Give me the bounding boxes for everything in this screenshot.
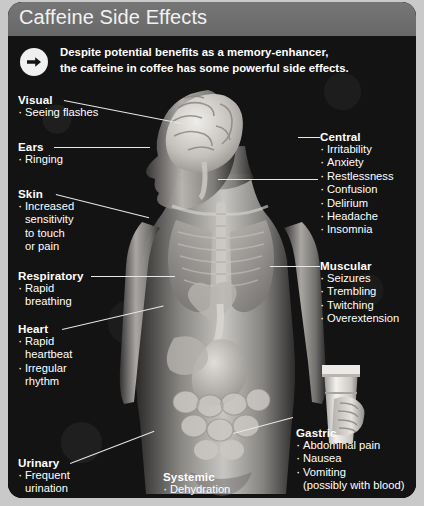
label-group-skin: Skin Increased sensitivity to touch or p… (18, 187, 74, 254)
list-item: Abdominal pain (296, 439, 404, 452)
list-item: Seeing flashes (18, 106, 98, 119)
page-title: Caffeine Side Effects (19, 6, 207, 29)
label-items: Frequent urination (18, 469, 70, 496)
label-heading: Systemic (163, 470, 230, 483)
leader-line-central (298, 137, 320, 138)
list-item: Twitching (320, 299, 399, 312)
label-group-muscular: Muscular Seizures Trembling Twitching Ov… (320, 259, 399, 326)
leader-line-muscular (270, 266, 320, 267)
list-item: or pain (18, 240, 74, 253)
list-item: rhythm (18, 375, 72, 388)
list-item: Dehydration (163, 483, 230, 496)
label-items: Seeing flashes (18, 106, 98, 119)
label-heading: Visual (18, 93, 98, 106)
list-item: Restlessness (320, 170, 394, 183)
label-group-central: Central Irritability Anxiety Restlessnes… (320, 130, 394, 237)
list-item: Confusion (320, 183, 394, 196)
infographic-canvas: Caffeine Side Effects Despite potential … (0, 0, 424, 506)
label-items: Rapid breathing (18, 282, 84, 309)
list-item: Nausea (296, 452, 404, 465)
label-items: Seizures Trembling Twitching Overextensi… (320, 272, 399, 326)
list-item: Anxiety (320, 156, 394, 169)
list-item: Insomnia (320, 223, 394, 236)
label-heading: Heart (18, 322, 72, 335)
list-item: Fever (163, 496, 230, 498)
label-heading: Ears (18, 140, 63, 153)
label-items: Rapid heartbeat Irregular rhythm (18, 335, 72, 389)
list-item: heartbeat (18, 348, 72, 361)
label-group-ears: Ears Ringing (18, 140, 63, 166)
label-group-respiratory: Respiratory Rapid breathing (18, 269, 84, 309)
label-group-systemic: Systemic Dehydration Fever (163, 470, 230, 498)
label-heading: Muscular (320, 259, 399, 272)
title-bar: Caffeine Side Effects (8, 2, 416, 36)
list-item: Rapid (18, 282, 84, 295)
list-item: Frequent (18, 469, 70, 482)
label-group-heart: Heart Rapid heartbeat Irregular rhythm (18, 322, 72, 389)
list-item: Irregular (18, 362, 72, 375)
intro-line-2: the caffeine in coffee has some powerful… (60, 62, 349, 74)
arrow-right-circle-icon (20, 48, 48, 76)
intro-line-1: Despite potential benefits as a memory-e… (60, 46, 328, 58)
label-heading: Skin (18, 187, 74, 200)
label-items: Irritability Anxiety Restlessness Confus… (320, 143, 394, 237)
list-item: to touch (18, 227, 74, 240)
list-item: sensitivity (18, 213, 74, 226)
list-item: Trembling (320, 285, 399, 298)
label-heading: Respiratory (18, 269, 84, 282)
label-items: Dehydration Fever (163, 483, 230, 498)
intro-text: Despite potential benefits as a memory-e… (60, 45, 398, 76)
label-items: Abdominal pain Nausea Vomiting (possibly… (296, 439, 404, 493)
list-item: Seizures (320, 272, 399, 285)
label-items: Ringing (18, 153, 63, 166)
label-group-gastric: Gastric Abdominal pain Nausea Vomiting (… (296, 426, 404, 493)
list-item: (possibly with blood) (296, 479, 404, 492)
leader-line-ears (54, 147, 150, 148)
infographic-card: Caffeine Side Effects Despite potential … (8, 2, 416, 498)
label-items: Increased sensitivity to touch or pain (18, 200, 74, 254)
label-heading: Urinary (18, 456, 70, 469)
list-item: urination (18, 482, 70, 495)
leader-line-central-2 (218, 179, 318, 180)
list-item: Overextension (320, 312, 399, 325)
list-item: Delirium (320, 197, 394, 210)
label-heading: Central (320, 130, 394, 143)
list-item: Vomiting (296, 466, 404, 479)
label-heading: Gastric (296, 426, 404, 439)
list-item: breathing (18, 295, 84, 308)
label-group-urinary: Urinary Frequent urination (18, 456, 70, 496)
list-item: Ringing (18, 153, 63, 166)
leader-line-respiratory (91, 276, 175, 277)
label-group-visual: Visual Seeing flashes (18, 93, 98, 119)
list-item: Increased (18, 200, 74, 213)
intro-callout: Despite potential benefits as a memory-e… (18, 44, 398, 86)
list-item: Rapid (18, 335, 72, 348)
list-item: Irritability (320, 143, 394, 156)
infographic-body: Despite potential benefits as a memory-e… (8, 36, 416, 498)
list-item: Headache (320, 210, 394, 223)
